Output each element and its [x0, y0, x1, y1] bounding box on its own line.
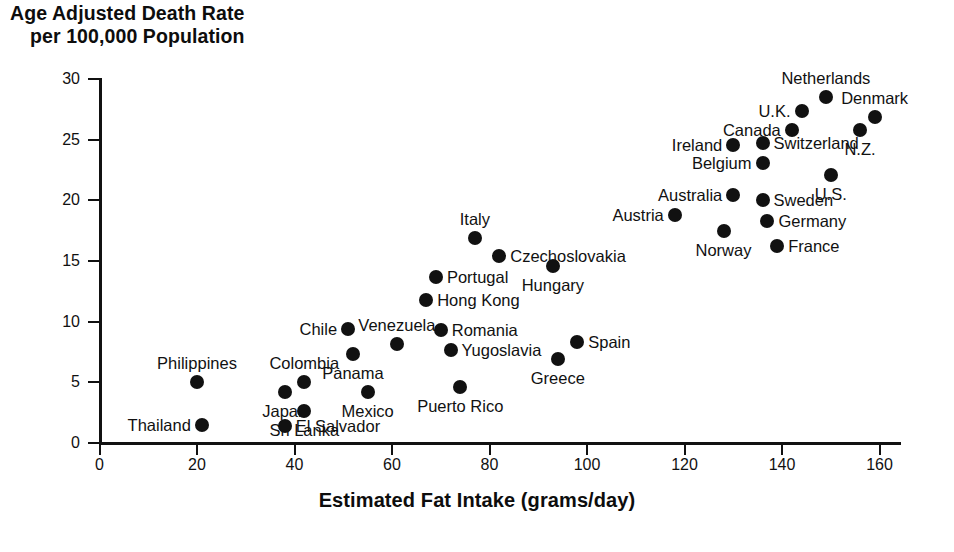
y-tick-label: 25	[46, 131, 80, 149]
y-tick-label: 30	[46, 70, 80, 88]
data-point-label: Hungary	[522, 277, 584, 294]
data-point-label: Ireland	[672, 136, 722, 153]
data-point-label: Australia	[658, 187, 722, 204]
y-tick-label: 0	[46, 434, 80, 452]
data-point[interactable]	[346, 347, 360, 361]
data-point[interactable]	[868, 110, 882, 124]
data-point[interactable]	[819, 90, 833, 104]
y-tick-mark	[88, 321, 100, 323]
x-tick-mark	[879, 444, 881, 455]
data-point[interactable]	[760, 214, 774, 228]
data-point[interactable]	[824, 168, 838, 182]
data-point[interactable]	[341, 322, 355, 336]
data-point[interactable]	[756, 156, 770, 170]
y-tick-label: 5	[46, 373, 80, 391]
y-tick-mark	[88, 199, 100, 201]
x-tick-label: 140	[759, 456, 805, 474]
data-point-label: Sweden	[774, 192, 834, 209]
data-point[interactable]	[726, 188, 740, 202]
data-point-label: El Salvador	[296, 418, 380, 435]
x-tick-mark	[489, 444, 491, 455]
data-point-label: Netherlands	[781, 70, 870, 87]
data-point-label: Thailand	[128, 417, 191, 434]
data-point-label: U.K.	[758, 102, 790, 119]
data-point-label: Chile	[300, 321, 338, 338]
data-point-label: Spain	[588, 334, 630, 351]
data-point[interactable]	[434, 323, 448, 337]
x-tick-label: 60	[369, 456, 415, 474]
y-tick-mark	[88, 381, 100, 383]
data-point-label: Puerto Rico	[417, 398, 503, 415]
x-tick-mark	[294, 444, 296, 455]
data-point[interactable]	[390, 337, 404, 351]
x-tick-mark	[781, 444, 783, 455]
data-point[interactable]	[726, 138, 740, 152]
data-point-label: Switzerland	[774, 135, 859, 152]
data-point[interactable]	[190, 375, 204, 389]
x-tick-mark	[391, 444, 393, 455]
data-point[interactable]	[492, 249, 506, 263]
data-point-label: Portugal	[447, 269, 508, 286]
data-point-label: Italy	[460, 210, 490, 227]
x-tick-label: 120	[662, 456, 708, 474]
data-point[interactable]	[297, 375, 311, 389]
x-tick-label: 20	[174, 456, 220, 474]
data-point-label: Colombia	[269, 355, 339, 372]
data-point-label: Venezuela	[358, 316, 435, 333]
data-point-label: Germany	[778, 213, 846, 230]
data-point[interactable]	[570, 335, 584, 349]
data-point[interactable]	[278, 385, 292, 399]
data-point-label: Canada	[723, 122, 781, 139]
plot-area: 051015202530 020406080100120140160 Nethe…	[0, 0, 954, 552]
data-point[interactable]	[468, 231, 482, 245]
data-point-label: Greece	[531, 370, 585, 387]
y-tick-label: 10	[46, 313, 80, 331]
data-point-label: Czechoslovakia	[510, 248, 626, 265]
scatter-chart-figure: Age Adjusted Death Rate per 100,000 Popu…	[0, 0, 954, 552]
data-point-label: Yugoslavia	[462, 341, 542, 358]
y-tick-mark	[88, 139, 100, 141]
data-point-label: Belgium	[692, 154, 752, 171]
data-point[interactable]	[444, 343, 458, 357]
data-point-label: Denmark	[841, 89, 908, 106]
data-point[interactable]	[668, 208, 682, 222]
x-tick-label: 160	[857, 456, 903, 474]
x-tick-label: 80	[467, 456, 513, 474]
x-axis-label: Estimated Fat Intake (grams/day)	[0, 489, 954, 512]
data-point-label: Philippines	[157, 355, 237, 372]
y-tick-mark	[88, 78, 100, 80]
x-tick-label: 100	[564, 456, 610, 474]
y-tick-label: 15	[46, 252, 80, 270]
data-point-label: Romania	[452, 322, 518, 339]
x-tick-mark	[684, 444, 686, 455]
data-point-label: Austria	[612, 207, 663, 224]
data-point[interactable]	[795, 104, 809, 118]
x-tick-mark	[99, 444, 101, 455]
data-point[interactable]	[195, 418, 209, 432]
data-point[interactable]	[419, 293, 433, 307]
data-point[interactable]	[770, 239, 784, 253]
data-point-label: Norway	[696, 242, 752, 259]
data-point[interactable]	[361, 385, 375, 399]
x-tick-label: 0	[77, 456, 123, 474]
x-tick-label: 40	[272, 456, 318, 474]
data-point[interactable]	[756, 193, 770, 207]
data-point[interactable]	[551, 352, 565, 366]
data-point-label: France	[788, 238, 839, 255]
x-tick-mark	[586, 444, 588, 455]
data-point[interactable]	[453, 380, 467, 394]
x-tick-mark	[196, 444, 198, 455]
data-point[interactable]	[429, 270, 443, 284]
data-point[interactable]	[717, 224, 731, 238]
y-tick-label: 20	[46, 191, 80, 209]
y-tick-mark	[88, 260, 100, 262]
data-point-label: Hong Kong	[437, 292, 520, 309]
